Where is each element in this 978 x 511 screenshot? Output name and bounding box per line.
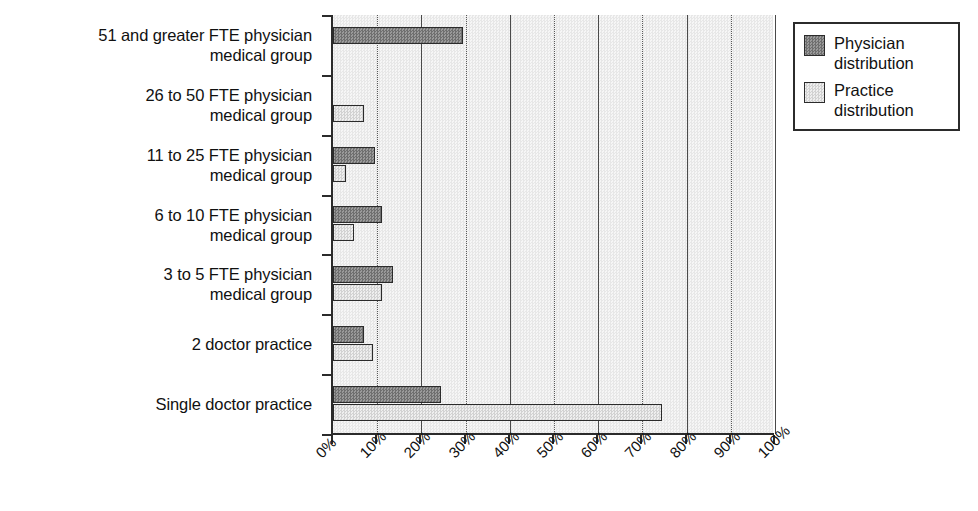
- legend-label-physician: Physician distribution: [834, 33, 914, 73]
- bar-practice: [333, 105, 364, 122]
- bar-physician: [333, 206, 382, 223]
- y-axis-tick: [322, 374, 332, 376]
- legend-label-practice-line2: distribution: [834, 101, 914, 119]
- legend-label-practice-line1: Practice: [834, 81, 894, 99]
- y-axis-tick: [322, 75, 332, 77]
- category-label: 2 doctor practice: [0, 334, 312, 354]
- category-label: 3 to 5 FTE physicianmedical group: [0, 264, 312, 304]
- legend-swatch-physician-icon: [804, 35, 825, 56]
- bar-group: [333, 254, 773, 314]
- bar-physician: [333, 147, 375, 164]
- category-label-line: Single doctor practice: [0, 394, 312, 414]
- category-axis-labels: 51 and greater FTE physicianmedical grou…: [0, 15, 322, 434]
- category-label: 26 to 50 FTE physicianmedical group: [0, 85, 312, 125]
- legend-swatch-practice-icon: [804, 82, 825, 103]
- x-axis-tick-label: 0%: [312, 434, 339, 461]
- y-axis-tick: [322, 254, 332, 256]
- bar-group: [333, 15, 773, 75]
- category-label-line: 2 doctor practice: [0, 334, 312, 354]
- bar-practice: [333, 404, 662, 421]
- category-label: Single doctor practice: [0, 394, 312, 414]
- category-label: 6 to 10 FTE physicianmedical group: [0, 205, 312, 245]
- bar-practice: [333, 224, 354, 241]
- bar-group: [333, 314, 773, 374]
- bar-physician: [333, 326, 364, 343]
- legend-label-practice: Practice distribution: [834, 80, 914, 120]
- legend-item-physician-distribution: Physician distribution: [804, 33, 950, 73]
- bars-layer: [333, 15, 773, 434]
- horizontal-bar-chart: 51 and greater FTE physicianmedical grou…: [0, 0, 978, 511]
- bar-group: [333, 374, 773, 434]
- chart-legend: Physician distribution Practice distribu…: [793, 22, 960, 131]
- bar-practice: [333, 284, 382, 301]
- category-label-line: medical group: [0, 165, 312, 185]
- bar-physician: [333, 266, 393, 283]
- category-label-line: 26 to 50 FTE physician: [0, 85, 312, 105]
- y-axis-tick: [322, 195, 332, 197]
- y-axis-tick: [322, 15, 332, 17]
- category-label-line: medical group: [0, 225, 312, 245]
- legend-label-physician-line1: Physician: [834, 34, 905, 52]
- bar-group: [333, 195, 773, 255]
- legend-label-physician-line2: distribution: [834, 54, 914, 72]
- category-label-line: 51 and greater FTE physician: [0, 25, 312, 45]
- y-axis-tick: [322, 314, 332, 316]
- category-label-line: 3 to 5 FTE physician: [0, 264, 312, 284]
- category-label-line: medical group: [0, 284, 312, 304]
- y-axis-tick: [322, 135, 332, 137]
- bar-group: [333, 135, 773, 195]
- category-label-line: 11 to 25 FTE physician: [0, 145, 312, 165]
- gridline-100%: [775, 15, 776, 434]
- plot-area: [331, 15, 773, 434]
- category-label: 51 and greater FTE physicianmedical grou…: [0, 25, 312, 65]
- bar-group: [333, 75, 773, 135]
- bar-physician: [333, 386, 441, 403]
- bar-physician: [333, 27, 463, 44]
- bar-practice: [333, 165, 346, 182]
- legend-item-practice-distribution: Practice distribution: [804, 80, 950, 120]
- bar-practice: [333, 344, 373, 361]
- category-label: 11 to 25 FTE physicianmedical group: [0, 145, 312, 185]
- category-label-line: medical group: [0, 105, 312, 125]
- category-label-line: 6 to 10 FTE physician: [0, 205, 312, 225]
- category-label-line: medical group: [0, 45, 312, 65]
